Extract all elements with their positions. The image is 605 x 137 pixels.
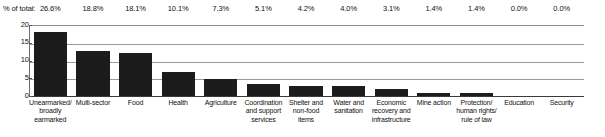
category-label-line: Unearmarked/ xyxy=(26,99,75,107)
category-label-line: rule of law xyxy=(452,116,501,124)
bar xyxy=(289,86,322,96)
category-label-line: Agriculture xyxy=(196,99,245,107)
category-label-line: items xyxy=(282,116,331,124)
y-axis-tick-mark xyxy=(29,78,32,79)
bar xyxy=(332,86,365,96)
x-axis-category-label: Shelter andnon-fooditems xyxy=(282,99,331,124)
category-label-line: Food xyxy=(111,99,160,107)
x-axis-category-label: Agriculture xyxy=(196,99,245,107)
category-label-line: Health xyxy=(154,99,203,107)
y-axis-tick-mark xyxy=(29,96,32,97)
bar-chart: % of total: 26.6%18.8%18.1%10.1%7.3%5.1%… xyxy=(0,0,605,137)
percent-of-total-value: 3.1% xyxy=(370,4,413,13)
percent-of-total-value: 1.4% xyxy=(455,4,498,13)
category-label-line: Security xyxy=(537,99,586,107)
y-axis-tick-label: 10 xyxy=(3,56,29,64)
category-label-line: Multi-sector xyxy=(69,99,118,107)
category-label-line: earmarked xyxy=(26,116,75,124)
bar xyxy=(460,93,493,96)
y-axis-tick-label: 5 xyxy=(3,74,29,82)
x-axis-category-label: Multi-sector xyxy=(69,99,118,107)
percent-of-total-value: 1.4% xyxy=(413,4,456,13)
gridline xyxy=(30,62,584,63)
bar xyxy=(204,79,237,96)
bar xyxy=(76,51,109,96)
category-label-line: Protection/ xyxy=(452,99,501,107)
gridline xyxy=(30,79,584,80)
x-axis-category-label: Economicrecovery andinfrastructure xyxy=(367,99,416,124)
x-axis-category-label: Education xyxy=(495,99,544,107)
category-label-line: broadly xyxy=(26,107,75,115)
y-axis: 05101520 xyxy=(0,0,29,137)
y-axis-tick-mark xyxy=(29,25,32,26)
bar xyxy=(162,72,195,96)
category-label-line: human rights/ xyxy=(452,107,501,115)
bar xyxy=(417,93,450,96)
percent-of-total-value: 7.3% xyxy=(199,4,242,13)
y-axis-tick-label: 20 xyxy=(3,21,29,29)
percent-of-total-value: 18.1% xyxy=(114,4,157,13)
y-axis-tick-mark xyxy=(29,43,32,44)
category-label-line: Water and xyxy=(324,99,373,107)
category-label-line: Economic xyxy=(367,99,416,107)
percent-of-total-value: 0.0% xyxy=(498,4,541,13)
category-label-line: infrastructure xyxy=(367,116,416,124)
category-label-line: Shelter and xyxy=(282,99,331,107)
gridline xyxy=(30,44,584,45)
percent-of-total-value: 18.8% xyxy=(72,4,115,13)
x-axis-category-label: Security xyxy=(537,99,586,107)
percent-of-total-value: 4.0% xyxy=(327,4,370,13)
bar xyxy=(119,53,152,96)
category-label-line: Mine action xyxy=(410,99,459,107)
y-axis-tick-mark xyxy=(29,61,32,62)
bar xyxy=(34,32,67,96)
percent-of-total-value: 0.0% xyxy=(540,4,583,13)
x-axis-category-label: Water andsanitation xyxy=(324,99,373,116)
x-axis-category-label: Protection/human rights/rule of law xyxy=(452,99,501,124)
category-label-line: Education xyxy=(495,99,544,107)
category-label-line: recovery and xyxy=(367,107,416,115)
x-axis-category-label: Coordinationand supportservices xyxy=(239,99,288,124)
category-label-line: non-food xyxy=(282,107,331,115)
category-label-line: and support xyxy=(239,107,288,115)
percent-of-total-value: 5.1% xyxy=(242,4,285,13)
percent-of-total-row: % of total: 26.6%18.8%18.1%10.1%7.3%5.1%… xyxy=(0,0,605,18)
bar xyxy=(375,89,408,96)
category-label-line: services xyxy=(239,116,288,124)
bar xyxy=(247,84,280,96)
percent-of-total-value: 26.6% xyxy=(29,4,72,13)
category-label-line: sanitation xyxy=(324,107,373,115)
x-axis-category-label: Food xyxy=(111,99,160,107)
percent-of-total-value: 10.1% xyxy=(157,4,200,13)
y-axis-tick-label: 15 xyxy=(3,38,29,46)
x-axis-category-label: Health xyxy=(154,99,203,107)
category-label-line: Coordination xyxy=(239,99,288,107)
x-axis-baseline xyxy=(29,96,584,97)
percent-of-total-value: 4.2% xyxy=(285,4,328,13)
x-axis-category-label: Mine action xyxy=(410,99,459,107)
x-axis-category-label: Unearmarked/broadlyearmarked xyxy=(26,99,75,124)
